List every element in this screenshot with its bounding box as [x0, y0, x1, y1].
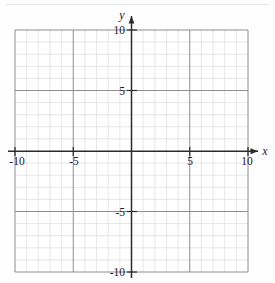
y-axis-label: y — [118, 8, 125, 22]
x-tick-label-neg5: -5 — [69, 155, 79, 167]
y-tick-label-10: 10 — [114, 24, 126, 36]
coordinate-plane: -10 -5 5 10 10 5 -5 -10 x y — [0, 0, 275, 283]
y-axis-arrowhead — [129, 16, 135, 24]
x-axis-arrowhead — [251, 148, 259, 154]
y-tick-label-5: 5 — [119, 85, 125, 97]
x-tick-label-5: 5 — [187, 155, 193, 167]
y-tick-label-neg5: -5 — [115, 206, 125, 218]
x-axis-label: x — [261, 144, 268, 158]
x-tick-label-neg10: -10 — [9, 155, 25, 167]
y-tick-label-neg10: -10 — [110, 266, 126, 278]
graph-canvas: -10 -5 5 10 10 5 -5 -10 x y — [0, 0, 275, 283]
x-tick-label-10: 10 — [241, 155, 253, 167]
